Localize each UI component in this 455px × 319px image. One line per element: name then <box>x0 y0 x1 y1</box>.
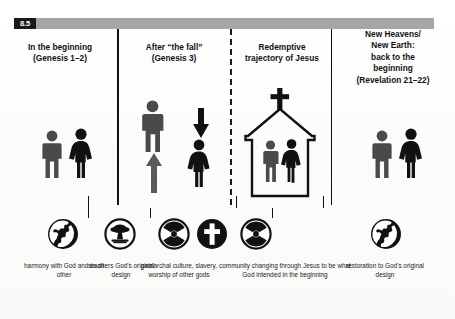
heading-line: beginning <box>336 63 450 74</box>
heading-line: New Heavens/ <box>336 29 450 40</box>
connector-stem-mushroom <box>88 196 89 218</box>
column-heading-new-heavens: New Heavens/ New Earth: back to the begi… <box>336 29 450 86</box>
heading-line: New Earth: <box>336 40 450 51</box>
radiation-icon <box>240 218 272 250</box>
pictogram-man-raised-col2 <box>139 100 166 152</box>
mushroom-cloud-icon <box>104 218 136 250</box>
caption-restoration: restoration to God's original design <box>345 262 425 279</box>
globe-icon <box>370 218 402 250</box>
pictogram-woman-col1 <box>68 128 94 178</box>
divider-solid-1 <box>117 29 119 205</box>
heading-line: trajectory of Jesus <box>236 53 328 64</box>
connector-stem-radiation-1 <box>150 208 151 218</box>
heading-line: Redemptive <box>236 42 328 53</box>
divider-solid-3 <box>331 29 332 205</box>
pictogram-man-church <box>263 140 278 182</box>
heading-line: (Genesis 1–2) <box>8 53 112 64</box>
pictogram-man-col1 <box>40 130 64 178</box>
heading-line: After “the fall” <box>124 42 224 53</box>
column-heading-redemptive: Redemptive trajectory of Jesus <box>236 42 328 65</box>
figure-header-bar <box>14 18 434 29</box>
church-illustration <box>243 88 317 204</box>
heading-line: back to the <box>336 52 450 63</box>
connector-stem-radiation-2 <box>272 208 273 218</box>
figure-number-tag: 8.5 <box>14 18 36 29</box>
pictogram-woman-col4 <box>398 128 424 178</box>
divider-dashed-2 <box>230 29 232 205</box>
caption-patriarchal: patriarchal culture, slavery, worship of… <box>140 262 218 279</box>
pictogram-woman-church <box>281 139 301 183</box>
heading-line: (Genesis 3) <box>124 53 224 64</box>
radiation-icon <box>158 218 190 250</box>
redemptive-bracket <box>236 196 324 208</box>
globe-icon <box>47 218 79 250</box>
pictogram-man-col4 <box>370 130 394 178</box>
caption-community-changing: community changing through Jesus to be w… <box>215 262 355 279</box>
figure-page: 8.5 In the beginning (Genesis 1–2) After… <box>0 0 455 319</box>
arrow-down-icon <box>193 108 209 142</box>
heading-line: (Revelation 21–22) <box>336 75 450 86</box>
heading-line: In the beginning <box>8 42 112 53</box>
arrow-up-icon <box>146 153 162 197</box>
cross-icon <box>271 88 290 110</box>
column-heading-beginning: In the beginning (Genesis 1–2) <box>8 42 112 65</box>
column-heading-fall: After “the fall” (Genesis 3) <box>124 42 224 65</box>
pictogram-woman-lowered-col2 <box>186 139 212 187</box>
cross-icon <box>196 218 228 250</box>
